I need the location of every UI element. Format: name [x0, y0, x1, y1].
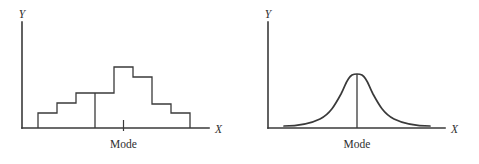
- curve-y-axis-label: Y: [265, 8, 273, 20]
- histogram-x-axis-label: X: [214, 123, 223, 135]
- normal-curve-svg: Y X Mode: [240, 0, 479, 164]
- statistics-figure: Y X Mode Y X Mode: [0, 0, 479, 164]
- curve-mode-label: Mode: [344, 138, 371, 150]
- histogram-mode-label: Mode: [110, 138, 137, 150]
- normal-curve-panel: Y X Mode: [240, 0, 479, 164]
- histogram-bars: [38, 67, 190, 128]
- histogram-y-axis-label: Y: [19, 8, 27, 20]
- histogram-panel: Y X Mode: [0, 0, 240, 164]
- histogram-svg: Y X Mode: [0, 0, 240, 164]
- curve-x-axis-label: X: [450, 123, 459, 135]
